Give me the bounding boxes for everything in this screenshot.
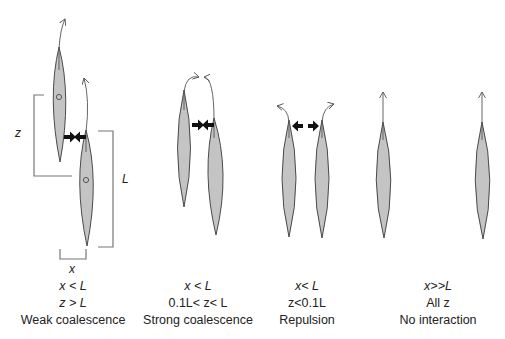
trajectory-arrow xyxy=(84,78,88,132)
condition-x: x < L xyxy=(8,278,138,295)
regime-label: No interaction xyxy=(373,312,503,329)
trajectory-arrow xyxy=(204,77,214,120)
panel-weak-coalescence xyxy=(34,19,113,259)
condition-x: x>>L xyxy=(373,278,503,295)
repulsion-force-arrows xyxy=(292,121,319,132)
attraction-force-arrows xyxy=(64,132,86,143)
L-dimension-label: L xyxy=(122,172,129,186)
attraction-force-arrows xyxy=(192,120,214,131)
L-dimension-bracket xyxy=(98,131,113,247)
caption-weak-coalescence: x < L z > L Weak coalescence xyxy=(8,278,138,329)
swimmer-body xyxy=(376,122,391,238)
trajectory-arrow xyxy=(277,106,289,122)
regime-label: Weak coalescence xyxy=(8,312,138,329)
caption-no-interaction: x>>L All z No interaction xyxy=(373,278,503,329)
panel-strong-coalescence xyxy=(178,77,224,235)
swimmer-body xyxy=(53,47,66,162)
panel-no-interaction xyxy=(376,92,490,239)
trajectory-arrow xyxy=(322,104,334,122)
swimmer-body xyxy=(208,118,223,235)
condition-z: z > L xyxy=(8,295,138,312)
condition-z: z<0.1L xyxy=(242,295,372,312)
trajectory-arrow xyxy=(184,77,199,92)
trajectory-arrow xyxy=(59,19,65,49)
swimmer-body xyxy=(80,130,94,246)
caption-repulsion: x< L z<0.1L Repulsion xyxy=(242,278,372,329)
x-dimension-label: x xyxy=(69,262,75,276)
regime-label: Repulsion xyxy=(242,312,372,329)
panel-repulsion xyxy=(277,104,334,238)
condition-x: x< L xyxy=(242,278,372,295)
x-dimension-bracket xyxy=(60,249,86,259)
condition-z: All z xyxy=(373,295,503,312)
swimmer-body xyxy=(475,122,490,239)
z-dimension-label: z xyxy=(15,126,21,140)
